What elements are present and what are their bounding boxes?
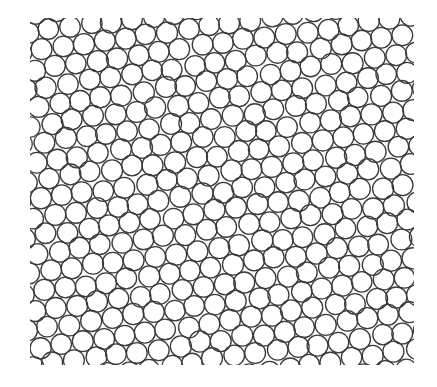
circle — [123, 303, 144, 324]
circle — [305, 93, 326, 114]
circle — [245, 45, 266, 66]
circle — [25, 301, 46, 322]
circle — [117, 121, 137, 141]
circle — [277, 117, 298, 138]
circle — [259, 212, 279, 232]
circle — [73, 34, 94, 55]
circle — [409, 135, 429, 155]
circle — [262, 6, 283, 27]
circle — [229, 86, 250, 107]
circle — [145, 97, 166, 118]
circle — [16, 320, 37, 341]
circle — [333, 127, 354, 148]
circle — [12, 134, 33, 155]
circle — [402, 248, 423, 269]
circle — [319, 257, 340, 278]
circle — [82, 253, 103, 274]
circle — [224, 345, 245, 366]
circle — [192, 34, 213, 55]
circle — [400, 154, 421, 175]
circle — [66, 147, 87, 168]
circle — [376, 64, 396, 84]
circle — [361, 104, 382, 125]
circle — [307, 335, 328, 356]
circle — [23, 208, 43, 228]
circle — [391, 229, 412, 250]
circle — [371, 27, 392, 48]
circle — [88, 143, 109, 164]
circle — [232, 177, 253, 198]
circle — [353, 124, 373, 144]
circle — [106, 48, 127, 69]
circle — [86, 291, 107, 312]
circle — [182, 353, 202, 373]
circle — [57, 223, 77, 243]
circle — [133, 82, 154, 103]
circle — [70, 90, 91, 111]
circle — [45, 204, 66, 225]
circle — [296, 262, 317, 283]
circle — [283, 153, 304, 174]
circle — [225, 290, 246, 311]
circle — [79, 218, 100, 239]
circle — [66, 53, 86, 73]
circle — [53, 36, 74, 57]
circle — [114, 325, 134, 345]
circle — [187, 147, 208, 168]
circle — [315, 166, 336, 187]
circle — [71, 182, 92, 203]
circle — [137, 174, 158, 195]
circle — [30, 338, 51, 359]
circle — [247, 194, 268, 215]
circle — [357, 308, 378, 329]
circle — [332, 275, 353, 296]
circle — [407, 339, 428, 360]
circle — [344, 144, 365, 165]
circle — [335, 218, 356, 239]
circle — [156, 170, 177, 191]
circle — [135, 24, 156, 45]
circle — [15, 229, 35, 250]
circle — [241, 159, 262, 180]
circle — [287, 42, 308, 63]
circle — [391, 80, 412, 101]
circle — [263, 247, 284, 268]
circle — [377, 213, 398, 234]
circle — [228, 141, 249, 162]
circle — [55, 277, 76, 298]
circle — [179, 317, 200, 338]
circle — [47, 149, 68, 170]
circle — [362, 345, 383, 366]
circle — [61, 258, 82, 279]
circle — [259, 361, 280, 382]
circle — [90, 234, 110, 254]
circle — [145, 247, 166, 268]
circle — [315, 314, 336, 335]
circle — [348, 236, 369, 257]
circle — [60, 17, 81, 38]
circle — [276, 172, 296, 192]
circle — [193, 127, 214, 148]
circle — [98, 215, 119, 236]
circle — [97, 363, 118, 384]
circle — [216, 217, 237, 238]
circle — [126, 102, 147, 123]
circle — [341, 347, 361, 367]
circle — [214, 127, 235, 148]
circle — [314, 224, 335, 245]
circle — [311, 278, 332, 299]
circles-group — [10, 0, 434, 385]
circle — [245, 343, 266, 364]
circle — [165, 300, 185, 320]
circle — [300, 205, 321, 226]
circle — [329, 90, 350, 111]
circle — [294, 317, 315, 338]
circle — [283, 4, 304, 25]
circle — [108, 197, 129, 218]
circle — [81, 310, 102, 331]
circle — [228, 235, 249, 256]
circle — [184, 296, 205, 317]
circle — [358, 68, 379, 89]
circle — [292, 281, 312, 301]
circle — [169, 39, 190, 60]
